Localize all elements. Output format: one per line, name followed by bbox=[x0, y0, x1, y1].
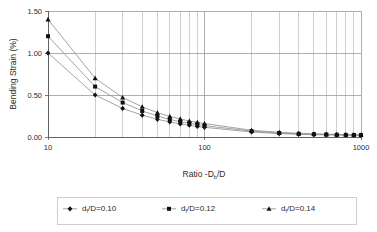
legend-label-diamond[interactable]: df/D=0.10 bbox=[82, 204, 117, 214]
bending-strain-chart: 0.000.501.001.50 101001000 Bending Strai… bbox=[0, 0, 377, 232]
x-axis-title: Ratio -Db/D bbox=[183, 169, 226, 180]
legend-label-post: /D=0.12 bbox=[187, 204, 216, 213]
x-axis-title-post: /D bbox=[217, 169, 226, 179]
legend-label-triangle[interactable]: df/D=0.14 bbox=[281, 204, 316, 214]
y-axis-tick-label: 0.00 bbox=[27, 133, 42, 142]
x-axis-tick-label: 1000 bbox=[353, 143, 370, 152]
y-axis-title: Bending Strain (%) bbox=[8, 38, 18, 110]
legend-label-square[interactable]: df/D=0.12 bbox=[181, 204, 216, 214]
legend-label-post: /D=0.14 bbox=[287, 204, 316, 213]
legend-label-post: /D=0.10 bbox=[88, 204, 117, 213]
data-point-square-marker bbox=[121, 101, 125, 105]
x-axis-tick-label: 10 bbox=[44, 143, 52, 152]
data-point-square-marker bbox=[93, 85, 97, 89]
y-axis-tick-label: 0.50 bbox=[27, 91, 42, 100]
data-point-square-marker bbox=[140, 109, 144, 113]
x-axis-title-pre: Ratio -D bbox=[183, 169, 214, 179]
y-axis-tick-label: 1.00 bbox=[27, 49, 42, 58]
y-axis-tick-label: 1.50 bbox=[27, 7, 42, 16]
x-axis-tick-label: 100 bbox=[198, 143, 211, 152]
data-point-square-marker bbox=[46, 34, 50, 38]
chart-container: 0.000.501.001.50 101001000 Bending Strai… bbox=[0, 0, 377, 232]
data-point-square-marker bbox=[167, 207, 171, 211]
